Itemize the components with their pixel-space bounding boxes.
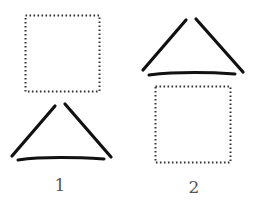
triangle-base-stroke <box>18 158 104 160</box>
triangle-base-stroke <box>149 73 235 75</box>
triangle <box>143 19 243 75</box>
figure-1-label: 1 <box>50 175 70 195</box>
dotted-square <box>26 16 100 92</box>
triangle <box>12 104 111 160</box>
figure-2-label: 2 <box>184 177 204 197</box>
triangle-left-stroke <box>143 20 186 70</box>
triangle-right-stroke <box>196 19 243 72</box>
triangle-left-stroke <box>12 106 55 156</box>
dotted-square <box>156 87 231 163</box>
triangle-right-stroke <box>65 104 111 157</box>
figure-1 <box>12 16 111 161</box>
diagram-canvas <box>0 0 253 206</box>
figure-2 <box>143 19 243 163</box>
